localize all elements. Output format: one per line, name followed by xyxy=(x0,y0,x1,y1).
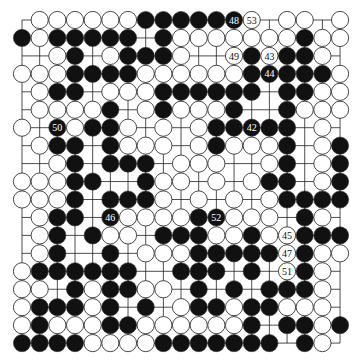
black-stone xyxy=(314,191,331,208)
black-stone xyxy=(84,119,101,136)
black-stone xyxy=(66,65,83,82)
white-stone xyxy=(314,101,331,118)
white-stone xyxy=(155,65,172,82)
black-stone xyxy=(13,335,30,352)
white-stone xyxy=(314,335,331,352)
black-stone xyxy=(225,245,242,262)
white-stone xyxy=(190,101,207,118)
black-stone xyxy=(102,299,119,316)
white-stone xyxy=(49,155,66,172)
white-stone xyxy=(261,191,278,208)
black-stone xyxy=(66,335,83,352)
white-stone xyxy=(331,83,348,100)
white-stone xyxy=(314,245,331,262)
black-stone xyxy=(155,29,172,46)
black-stone xyxy=(49,29,66,46)
white-stone xyxy=(314,83,331,100)
white-stone xyxy=(66,317,83,334)
black-stone xyxy=(296,263,313,280)
white-stone xyxy=(31,65,48,82)
white-stone xyxy=(331,29,348,46)
black-stone xyxy=(172,227,189,244)
white-stone xyxy=(243,29,260,46)
move-number-49: 49 xyxy=(229,51,239,62)
move-number-42: 42 xyxy=(247,122,257,133)
white-stone xyxy=(31,11,48,28)
black-stone xyxy=(31,335,48,352)
black-stone xyxy=(278,119,295,136)
black-stone xyxy=(261,119,278,136)
white-stone xyxy=(296,101,313,118)
white-stone xyxy=(172,299,189,316)
white-stone xyxy=(13,191,30,208)
white-stone xyxy=(102,11,119,28)
move-number-45: 45 xyxy=(282,230,292,241)
black-stone xyxy=(261,299,278,316)
black-stone xyxy=(190,281,207,298)
white-stone xyxy=(314,29,331,46)
black-stone xyxy=(261,173,278,190)
white-stone xyxy=(137,335,154,352)
black-stone xyxy=(331,227,348,244)
black-stone xyxy=(102,155,119,172)
black-stone xyxy=(243,47,260,64)
black-stone xyxy=(331,155,348,172)
black-stone xyxy=(66,173,83,190)
white-stone xyxy=(208,65,225,82)
black-stone xyxy=(102,137,119,154)
white-stone xyxy=(155,281,172,298)
black-stone xyxy=(66,299,83,316)
white-stone xyxy=(119,119,136,136)
black-stone xyxy=(102,65,119,82)
white-stone xyxy=(31,83,48,100)
black-stone xyxy=(296,227,313,244)
white-stone xyxy=(102,335,119,352)
white-stone xyxy=(84,317,101,334)
white-stone xyxy=(13,299,30,316)
black-stone xyxy=(102,317,119,334)
black-stone xyxy=(190,335,207,352)
white-stone xyxy=(49,11,66,28)
white-stone xyxy=(243,173,260,190)
white-stone xyxy=(190,155,207,172)
black-stone xyxy=(119,29,136,46)
black-stone xyxy=(296,245,313,262)
black-stone xyxy=(155,11,172,28)
black-stone xyxy=(31,299,48,316)
white-stone xyxy=(190,317,207,334)
black-stone xyxy=(137,191,154,208)
black-stone xyxy=(155,227,172,244)
black-stone xyxy=(208,11,225,28)
black-stone xyxy=(49,335,66,352)
black-stone xyxy=(261,281,278,298)
white-stone xyxy=(31,173,48,190)
white-stone xyxy=(155,245,172,262)
black-stone xyxy=(296,29,313,46)
black-stone xyxy=(102,263,119,280)
black-stone xyxy=(190,263,207,280)
black-stone xyxy=(84,263,101,280)
black-stone xyxy=(49,83,66,100)
white-stone xyxy=(225,191,242,208)
black-stone xyxy=(31,263,48,280)
black-stone xyxy=(243,299,260,316)
black-stone xyxy=(102,119,119,136)
black-stone xyxy=(314,227,331,244)
black-stone xyxy=(155,83,172,100)
black-stone xyxy=(278,155,295,172)
white-stone xyxy=(172,47,189,64)
black-stone xyxy=(172,335,189,352)
black-stone xyxy=(296,65,313,82)
white-stone xyxy=(190,119,207,136)
white-stone xyxy=(31,29,48,46)
black-stone xyxy=(84,29,101,46)
white-stone xyxy=(208,173,225,190)
white-stone xyxy=(172,317,189,334)
white-stone xyxy=(314,137,331,154)
black-stone xyxy=(66,155,83,172)
black-stone xyxy=(119,47,136,64)
white-stone xyxy=(225,29,242,46)
white-stone xyxy=(49,173,66,190)
black-stone xyxy=(208,263,225,280)
white-stone xyxy=(314,47,331,64)
